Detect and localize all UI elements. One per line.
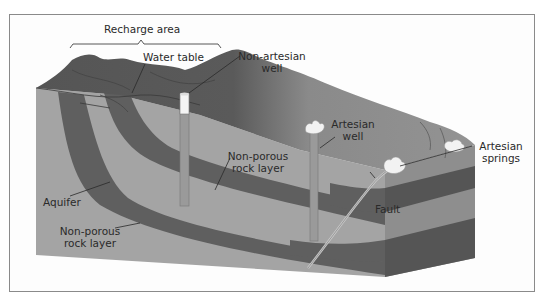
label-non-porous-upper-line2: rock layer [218, 162, 298, 174]
label-non-artesian-well-line2: well [232, 62, 312, 74]
label-non-porous-lower: Non-porous rock layer [55, 225, 125, 249]
label-recharge-area: Recharge area [104, 23, 180, 35]
label-artesian-springs: Artesian springs [475, 140, 527, 164]
label-artesian-well: Artesian well [328, 118, 378, 142]
label-non-artesian-well-line1: Non-artesian [232, 50, 312, 62]
label-non-porous-lower-line2: rock layer [55, 237, 125, 249]
label-fault: Fault [375, 203, 400, 215]
recharge-area-bracket [70, 40, 221, 48]
label-artesian-springs-line2: springs [475, 152, 527, 164]
label-non-porous-lower-line1: Non-porous [55, 225, 125, 237]
label-aquifer: Aquifer [43, 196, 81, 208]
label-artesian-well-line1: Artesian [328, 118, 378, 130]
label-water-table: Water table [143, 51, 204, 63]
label-non-porous-upper-line1: Non-porous [218, 150, 298, 162]
non-artesian-well [180, 93, 189, 207]
label-artesian-well-line2: well [328, 130, 378, 142]
label-non-porous-upper: Non-porous rock layer [218, 150, 298, 174]
label-artesian-springs-line1: Artesian [475, 140, 527, 152]
label-non-artesian-well: Non-artesian well [232, 50, 312, 74]
